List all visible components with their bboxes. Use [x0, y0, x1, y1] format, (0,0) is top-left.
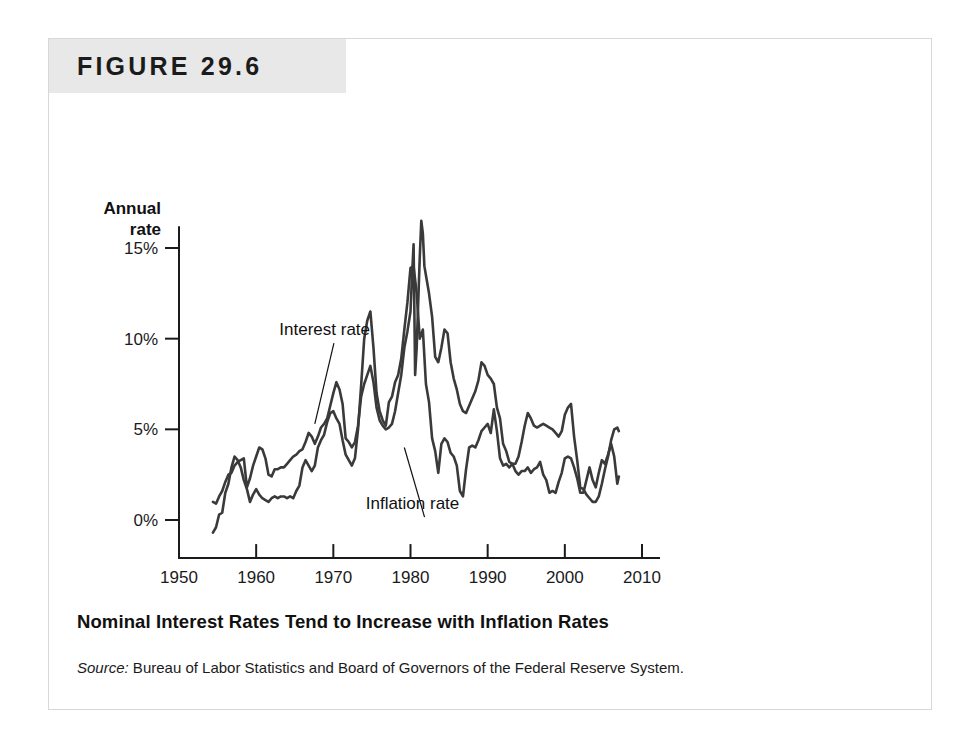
series-line-inflation-rate — [213, 266, 619, 533]
interest-inflation-line-chart: 0%5%10%15%Annualrate 1950196019701980199… — [49, 93, 931, 597]
figure-number-label: FIGURE 29.6 — [77, 52, 262, 81]
caption-block: Nominal Interest Rates Tend to Increase … — [77, 611, 907, 676]
y-tick-label: 5% — [133, 420, 158, 439]
figure-caption: Nominal Interest Rates Tend to Increase … — [77, 611, 907, 633]
y-axis-title: Annual — [103, 199, 161, 218]
x-tick-label: 2000 — [546, 568, 584, 587]
figure-card: FIGURE 29.6 0%5%10%15%Annualrate 1950196… — [48, 38, 932, 710]
y-tick-label: 0% — [133, 511, 158, 530]
y-axis-title-line2: rate — [130, 220, 161, 239]
x-axis: 1950196019701980199020002010Year — [160, 544, 661, 597]
x-tick-label: 1980 — [392, 568, 430, 587]
source-text: Bureau of Labor Statistics and Board of … — [129, 659, 684, 676]
y-tick-label: 10% — [124, 330, 158, 349]
annotation-label-inflation-rate: Inflation rate — [366, 494, 460, 513]
x-tick-label: 1990 — [469, 568, 507, 587]
x-tick-label: 1960 — [237, 568, 275, 587]
series-line-interest-rate — [213, 221, 619, 504]
chart-annotations-group: Interest rateInflation rate — [279, 320, 459, 517]
x-tick-label: 1970 — [314, 568, 352, 587]
annotation-label-interest-rate: Interest rate — [279, 320, 370, 339]
figure-source: Source: Bureau of Labor Statistics and B… — [77, 659, 907, 676]
x-tick-label: 1950 — [160, 568, 198, 587]
source-label: Source: — [77, 659, 129, 676]
x-tick-label: 2010 — [623, 568, 661, 587]
y-tick-label: 15% — [124, 239, 158, 258]
chart-plot-area: 0%5%10%15%Annualrate 1950196019701980199… — [49, 93, 931, 597]
